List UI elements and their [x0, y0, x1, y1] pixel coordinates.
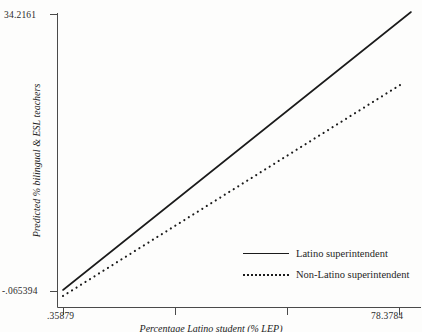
legend-swatch-dotted-line-icon: [243, 270, 289, 280]
x-axis-tick-label-right: 78.3784: [371, 311, 403, 321]
y-axis-title: Predicted % bilingual & ESL teachers: [31, 46, 42, 276]
legend-label-latino-superintendent: Latino superintendent: [296, 248, 388, 259]
x-axis-tick-label-left: .35879: [47, 311, 74, 321]
chart-legend: Latino superintendent Non-Latino superin…: [243, 243, 419, 285]
legend-swatch-solid-line-icon: [243, 249, 289, 259]
x-axis-title: Percentage Latino student (% LEP): [0, 323, 422, 332]
chart-figure: 34.2161 -.065394 .35879 78.3784 Predicte…: [0, 0, 422, 332]
y-axis-tick-label-bottom: -.065394: [2, 286, 38, 296]
legend-item-non-latino-superintendent: Non-Latino superintendent: [243, 264, 419, 285]
legend-label-non-latino-superintendent: Non-Latino superintendent: [296, 269, 409, 280]
legend-item-latino-superintendent: Latino superintendent: [243, 243, 419, 264]
y-axis-tick-label-top: 34.2161: [4, 10, 36, 20]
